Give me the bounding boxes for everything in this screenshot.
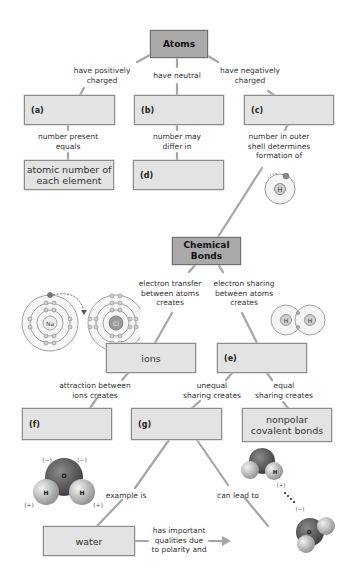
link-electron-transfer: electron transfer between atoms creates — [139, 279, 202, 308]
node-c-label: (c) — [251, 106, 263, 115]
atoms-label: Atoms — [151, 31, 207, 57]
node-a[interactable]: (a) — [24, 95, 115, 125]
atoms-node: Atoms — [150, 30, 208, 58]
hydrogen-atom-icon: H — [262, 168, 302, 206]
partial-negative-1: (−) — [42, 456, 52, 463]
partial-negative-2: (−) — [77, 456, 87, 463]
link-positively-charged: have positively charged — [74, 66, 131, 85]
water-molecule-icon: O H H (−) (−) (+) (+) — [22, 455, 112, 515]
water-hydrogen2-symbol: H — [79, 489, 84, 496]
node-d-label: (d) — [140, 171, 153, 180]
link-neutral: have neutral — [153, 71, 201, 81]
link-electron-sharing: electron sharing between atoms creates — [214, 279, 275, 308]
water-label: water — [44, 527, 134, 555]
link-number-may-differ: number may differ in — [153, 132, 201, 151]
hydrogen-bond-icon: H (+) (−) O — [238, 445, 351, 553]
node-nonpolar-covalent: nonpolar covalent bonds — [242, 408, 332, 442]
node-d[interactable]: (d) — [133, 160, 224, 190]
link-attraction: attraction between ions creates — [59, 381, 130, 400]
link-negatively-charged: have negatively charged — [220, 66, 280, 85]
node-g[interactable]: (g) — [131, 408, 222, 440]
partial-positive-1: (+) — [24, 501, 34, 508]
atomic-number-label: atomic number of each element — [25, 161, 113, 189]
link-equal-sharing: equal sharing creates — [255, 381, 313, 400]
node-c[interactable]: (c) — [244, 95, 334, 125]
node-b[interactable]: (b) — [134, 95, 224, 125]
node-g-label: (g) — [138, 420, 151, 429]
node-e[interactable]: (e) — [217, 343, 307, 373]
link-example-is: example is — [106, 491, 147, 501]
hydrogen-molecule-icon: H H — [268, 302, 330, 340]
bond-oxygen-symbol: O — [307, 529, 312, 535]
sodium-symbol: Na — [46, 320, 54, 327]
node-b-label: (b) — [141, 106, 154, 115]
nonpolar-label: nonpolar covalent bonds — [243, 409, 331, 441]
link-number-present: number present equals — [38, 132, 98, 151]
node-water: water — [43, 526, 135, 556]
bond-partial-negative: (−) — [296, 506, 305, 512]
node-f-label: (f) — [29, 420, 40, 429]
node-a-label: (a) — [31, 106, 44, 115]
water-oxygen-symbol: O — [61, 472, 66, 479]
link-unequal-sharing: unequal sharing creates — [183, 381, 241, 400]
chemical-bonds-node: Chemical Bonds — [172, 237, 241, 265]
chlorine-symbol: Cl — [113, 320, 119, 327]
hydrogen-symbol: H — [278, 186, 283, 194]
node-atomic-number: atomic number of each element — [24, 160, 114, 190]
partial-positive-2: (+) — [93, 501, 103, 508]
hydrogen-left-symbol: H — [284, 317, 289, 324]
hydrogen-right-symbol: H — [308, 317, 313, 324]
chemical-bonds-label: Chemical Bonds — [173, 238, 240, 264]
link-important-qualities: has important qualities due to polarity … — [152, 526, 207, 555]
node-e-label: (e) — [224, 354, 237, 363]
bond-hydrogen-symbol: H — [273, 469, 278, 475]
water-hydrogen1-symbol: H — [43, 489, 48, 496]
node-ions: ions — [106, 343, 196, 373]
node-f[interactable]: (f) — [22, 408, 112, 440]
link-outer-shell: number in outer shell determines formati… — [248, 132, 310, 161]
ions-label: ions — [107, 344, 195, 372]
bond-partial-positive: (+) — [277, 482, 286, 488]
